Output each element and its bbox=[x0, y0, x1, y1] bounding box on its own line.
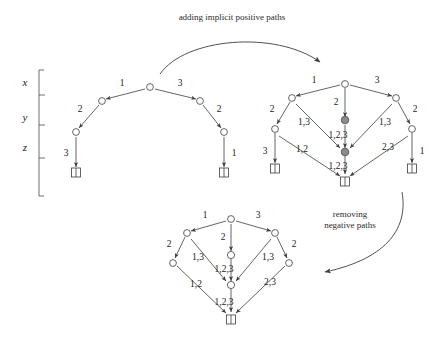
edge-label-left-diag: 1,3 bbox=[298, 117, 310, 127]
node-center-upper bbox=[227, 251, 234, 258]
edge-label-left-low-diag: 1,2 bbox=[190, 279, 202, 289]
edge-top-to-upper-left bbox=[296, 85, 340, 96]
node-mid-left bbox=[272, 126, 279, 133]
edge-upper-right-to-mid-right bbox=[277, 237, 287, 258]
edge-label-center-bottom: 1,2,3 bbox=[215, 297, 234, 307]
edge-label-left-diag: 1,3 bbox=[192, 252, 204, 262]
node-center-lower-filled bbox=[341, 148, 349, 156]
terminal-bottom-right bbox=[408, 164, 417, 173]
node-upper-left bbox=[289, 95, 296, 102]
edge-label-right-down: 2 bbox=[413, 104, 418, 114]
edge-label-center-mid: 1,2,3 bbox=[329, 130, 348, 140]
edge-mid-right-to-bottom-terminal bbox=[236, 266, 285, 313]
node-top bbox=[147, 84, 154, 91]
edge-label-top-right: 3 bbox=[375, 75, 380, 85]
level-bracket bbox=[39, 70, 45, 196]
edge-label-top-center: 2 bbox=[334, 97, 339, 107]
axis-label-x: x bbox=[22, 76, 28, 88]
node-mid-left bbox=[170, 260, 177, 267]
edge-top-to-upper-right bbox=[350, 85, 392, 96]
axis-label-z: z bbox=[22, 141, 28, 153]
terminal-bottom-center bbox=[341, 177, 350, 186]
edge-label-left-bottom: 3 bbox=[64, 148, 69, 158]
terminal-bottom-right bbox=[220, 168, 229, 177]
edge-label-top-center: 2 bbox=[221, 232, 226, 242]
diagram-original-graph: 1 3 2 2 3 1 bbox=[64, 78, 237, 177]
diagram-after-removing-negative-paths: 1 3 2 2 2 1,3 1,3 1,2,3 1,2 2,3 1,2,3 bbox=[167, 210, 297, 324]
node-mid-right bbox=[286, 260, 293, 267]
caption-removing-line1: removing bbox=[333, 209, 368, 219]
edge-upper-right-to-mid-right bbox=[398, 102, 410, 124]
edge-label-right-down: 2 bbox=[217, 104, 222, 114]
transition-arrow-removing-paths bbox=[325, 192, 403, 272]
caption-removing-line2: negative paths bbox=[324, 220, 376, 230]
edge-label-right-bottom: 1 bbox=[420, 146, 425, 156]
node-upper-right bbox=[197, 98, 204, 105]
edge-mid-right-to-bottom-terminal bbox=[350, 136, 408, 176]
edge-top-to-upper-left bbox=[191, 221, 226, 231]
edge-top-to-upper-right bbox=[155, 89, 196, 99]
edge-label-right-bottom: 1 bbox=[232, 148, 237, 158]
edge-label-right-low-diag: 2,3 bbox=[382, 142, 394, 152]
edge-label-left-low-diag: 1,2 bbox=[296, 144, 308, 154]
edge-label-top-right: 3 bbox=[178, 78, 183, 88]
edge-label-right-diag: 1,3 bbox=[262, 252, 274, 262]
edge-label-left-down: 2 bbox=[167, 239, 172, 249]
terminal-bottom-left bbox=[271, 164, 280, 173]
node-upper-right bbox=[393, 95, 400, 102]
diagram-with-implicit-positive-paths: 1 3 2 2 2 1,3 1,3 1,2,3 1,2 2,3 1,2,3 3 … bbox=[263, 75, 425, 186]
edge-upper-left-to-mid-left bbox=[175, 237, 185, 258]
node-mid-right bbox=[409, 126, 416, 133]
edge-upper-left-to-mid-left bbox=[277, 102, 290, 124]
edge-label-right-low-diag: 2,3 bbox=[264, 277, 276, 287]
edge-label-right-diag: 1,3 bbox=[379, 117, 391, 127]
figure-canvas: x y z adding implicit positive paths 1 3 bbox=[0, 0, 429, 346]
edge-label-center-mid: 1,2,3 bbox=[215, 264, 234, 274]
node-upper-left bbox=[99, 98, 106, 105]
edge-label-top-left: 1 bbox=[203, 210, 208, 220]
edge-top-to-upper-left bbox=[106, 89, 145, 99]
transition-arrow-adding-paths bbox=[160, 42, 320, 74]
caption-adding-implicit-positive-paths: adding implicit positive paths bbox=[179, 12, 286, 22]
edge-label-left-down: 2 bbox=[270, 104, 275, 114]
edge-label-left-bottom: 3 bbox=[263, 146, 268, 156]
edge-label-top-right: 3 bbox=[256, 210, 261, 220]
node-top bbox=[342, 81, 349, 88]
terminal-bottom-center bbox=[227, 315, 236, 324]
axis-label-y: y bbox=[22, 111, 28, 123]
edge-label-top-left: 1 bbox=[120, 78, 125, 88]
edge-label-right-down: 2 bbox=[292, 239, 297, 249]
node-center-lower bbox=[227, 281, 234, 288]
node-upper-right bbox=[272, 230, 279, 237]
node-mid-left bbox=[73, 129, 80, 136]
terminal-bottom-left bbox=[72, 168, 81, 177]
edge-label-left-down: 2 bbox=[78, 104, 83, 114]
edge-label-center-bottom: 1,2,3 bbox=[329, 161, 348, 171]
node-upper-left bbox=[184, 230, 191, 237]
node-top bbox=[228, 216, 235, 223]
node-mid-right bbox=[221, 129, 228, 136]
edge-top-to-upper-right bbox=[236, 221, 271, 231]
edge-label-top-left: 1 bbox=[312, 75, 317, 85]
node-center-upper-filled bbox=[341, 116, 349, 124]
